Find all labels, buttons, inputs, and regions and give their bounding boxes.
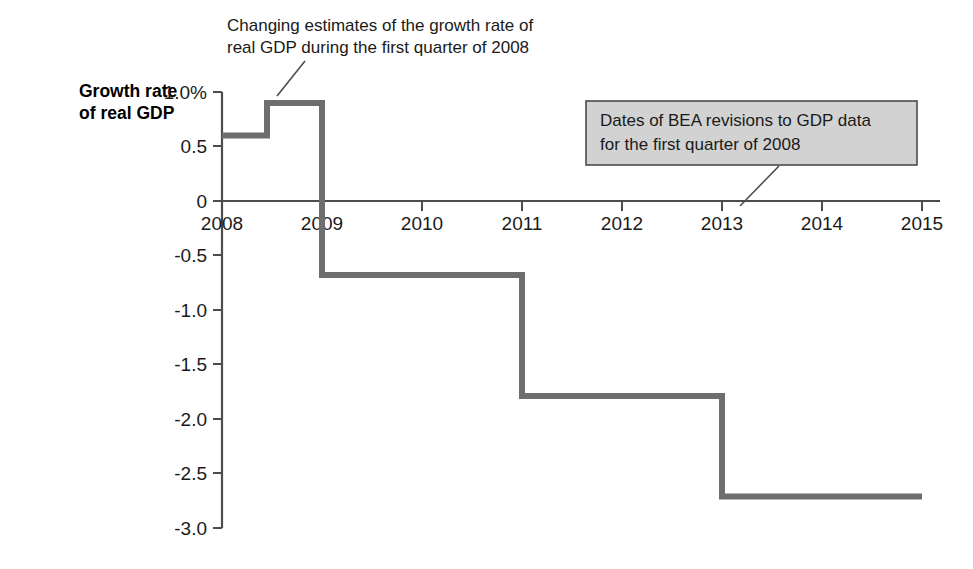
y-axis-ticks (213, 92, 222, 528)
x-tick-label-5: 2013 (701, 213, 743, 234)
y-axis-tick-labels: 1.0% 0.5 0 -0.5 -1.0 -1.5 -2.0 -2.5 -3.0 (164, 82, 207, 539)
estimates-callout: Changing estimates of the growth rate of… (227, 16, 533, 96)
y-tick-label-3: -0.5 (174, 245, 207, 266)
y-axis-title-line1: Growth rate (79, 81, 177, 101)
y-tick-label-4: -1.0 (174, 300, 207, 321)
y-tick-label-7: -2.5 (174, 463, 207, 484)
y-tick-label-1: 0.5 (181, 136, 207, 157)
x-axis-ticks (222, 201, 922, 211)
x-tick-label-2: 2010 (401, 213, 443, 234)
y-axis-title-line2: of real GDP (79, 103, 175, 123)
estimates-callout-leader-line (277, 61, 305, 96)
gdp-step-chart: Growth rate of real GDP 1.0% 0.5 0 -0.5 … (0, 0, 973, 569)
y-tick-label-2: 0 (196, 191, 207, 212)
y-tick-label-0: 1.0% (164, 82, 207, 103)
bea-revisions-callout-line2: for the first quarter of 2008 (600, 135, 800, 154)
x-axis-tick-labels: 2008 2009 2010 2011 2012 2013 2014 2015 (201, 213, 943, 234)
bea-revisions-callout: Dates of BEA revisions to GDP data for t… (586, 101, 917, 206)
bea-revisions-callout-line1: Dates of BEA revisions to GDP data (600, 111, 871, 130)
x-tick-label-6: 2014 (801, 213, 844, 234)
chart-container: Growth rate of real GDP 1.0% 0.5 0 -0.5 … (0, 0, 973, 569)
y-tick-label-8: -3.0 (174, 518, 207, 539)
x-tick-label-7: 2015 (901, 213, 943, 234)
x-tick-label-3: 2011 (502, 213, 543, 234)
y-tick-label-6: -2.0 (174, 409, 207, 430)
estimates-callout-line2: real GDP during the first quarter of 200… (227, 38, 529, 57)
x-tick-label-4: 2012 (601, 213, 643, 234)
estimates-callout-line1: Changing estimates of the growth rate of (227, 16, 533, 35)
y-tick-label-5: -1.5 (174, 354, 207, 375)
x-tick-label-0: 2008 (201, 213, 243, 234)
